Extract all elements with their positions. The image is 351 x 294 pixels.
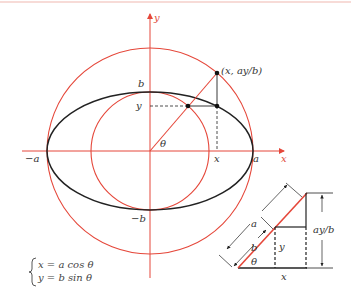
x-axis-label: x <box>281 153 287 164</box>
inset-label-x: x <box>281 271 287 282</box>
label-neg-b: −b <box>131 213 146 224</box>
point-inner <box>186 104 191 109</box>
inset-label-a: a <box>251 218 257 229</box>
y-axis-label: y <box>153 12 160 23</box>
label-a: a <box>253 153 259 164</box>
point-outer <box>215 71 220 76</box>
inset-label-theta: θ <box>251 256 257 267</box>
ellipse-diagram: y x −a a x b y −b θ (x, ay/b) x = a cos … <box>0 0 351 294</box>
label-b: b <box>138 78 144 89</box>
brace <box>29 258 36 286</box>
label-y-tick: y <box>135 100 142 111</box>
equation-y: y = b sin θ <box>37 272 92 283</box>
inset-label-ay-over-b: ay/b <box>313 224 334 235</box>
point-ellipse <box>215 104 220 109</box>
inset-label-y: y <box>278 241 285 252</box>
equation-x: x = a cos θ <box>38 259 93 270</box>
label-theta: θ <box>160 138 166 149</box>
label-point: (x, ay/b) <box>221 65 262 76</box>
label-x-tick: x <box>214 153 220 164</box>
label-neg-a: −a <box>25 153 39 164</box>
inset-label-b: b <box>251 242 257 253</box>
